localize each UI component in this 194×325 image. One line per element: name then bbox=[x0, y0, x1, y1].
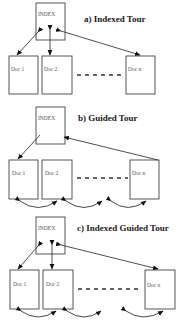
index-doc1-arrow bbox=[17, 32, 38, 55]
doc-label: Doc 1 bbox=[13, 281, 27, 287]
doc-label: Doc 1 bbox=[12, 170, 26, 176]
prev-docn-cycle-arrow bbox=[111, 201, 146, 208]
doc-label: Doc 2 bbox=[45, 170, 59, 176]
panel-indexed-guided-tour: c) Indexed Guided Tour INDEX Doc 1 Doc 2… bbox=[10, 217, 175, 317]
index-to-doc1-arrow bbox=[18, 135, 40, 159]
index-box bbox=[36, 107, 65, 144]
tour-diagram: a) Indexed Tour INDEX Doc 1 Doc 2 Doc n … bbox=[0, 0, 194, 325]
doc-label: Doc n bbox=[128, 66, 142, 72]
index-box bbox=[36, 3, 65, 40]
doc-label: Doc n bbox=[132, 170, 146, 176]
doc-box-2 bbox=[42, 56, 72, 94]
docn-to-index-arrow bbox=[64, 137, 158, 160]
index-label: INDEX bbox=[38, 225, 55, 231]
doc-box-n bbox=[130, 160, 159, 199]
doc-label: Doc 2 bbox=[44, 66, 58, 72]
doc-label: Doc n bbox=[147, 282, 161, 288]
panel-guided-tour: b) Guided Tour INDEX Doc 1 Doc 2 Doc n bbox=[9, 107, 159, 208]
doc2-next-cycle-arrow bbox=[67, 311, 101, 317]
prev-docn-cycle-arrow bbox=[126, 311, 163, 317]
doc-box-2 bbox=[43, 270, 73, 309]
doc1-doc2-cycle-arrow bbox=[20, 201, 57, 208]
panel-title: a) Indexed Tour bbox=[84, 14, 146, 24]
index-box bbox=[36, 217, 65, 254]
doc-box-2 bbox=[42, 160, 72, 199]
doc-box-1 bbox=[9, 160, 38, 199]
doc1-doc2-cycle-arrow bbox=[21, 311, 56, 317]
index-docn-arrow bbox=[61, 31, 140, 55]
panel-title: c) Indexed Guided Tour bbox=[77, 223, 169, 233]
doc-box-n bbox=[126, 56, 155, 94]
index-docn-arrow bbox=[61, 245, 158, 269]
doc-box-1 bbox=[9, 56, 38, 94]
index-label: INDEX bbox=[38, 115, 55, 121]
doc-label: Doc 2 bbox=[46, 281, 60, 287]
doc-box-1 bbox=[10, 270, 39, 309]
panel-title: b) Guided Tour bbox=[78, 113, 138, 123]
index-label: INDEX bbox=[38, 11, 55, 17]
doc-label: Doc 1 bbox=[11, 66, 25, 72]
panel-indexed-tour: a) Indexed Tour INDEX Doc 1 Doc 2 Doc n bbox=[9, 3, 155, 94]
doc-box-n bbox=[145, 270, 175, 309]
doc2-next-cycle-arrow bbox=[66, 201, 102, 208]
index-doc1-arrow bbox=[18, 246, 38, 269]
